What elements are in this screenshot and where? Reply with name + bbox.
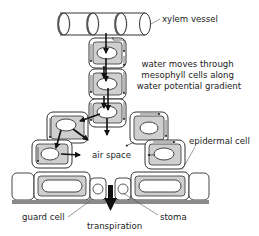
- guard-cell-label: guard cell: [22, 212, 65, 222]
- xylem-vessel-label: xylem vessel: [162, 14, 218, 24]
- mesophyll-cell-left-upper: [47, 112, 88, 143]
- mesophyll-cell-right-upper: [130, 112, 168, 144]
- air-space-label: air space: [92, 150, 131, 160]
- xylem-leader-line: [151, 19, 160, 24]
- epidermal-cell-label: epidermal cell: [189, 136, 250, 146]
- transpiration-label: transpiration: [87, 221, 142, 231]
- xylem-vessel: [58, 13, 150, 35]
- leaf-cross-section-diagram: xylem vessel water moves through mesophy…: [0, 0, 259, 236]
- mesophyll-cell-1: [89, 38, 126, 68]
- mesophyll-cell-right-lower: [145, 140, 185, 169]
- stoma-label: stoma: [160, 212, 187, 222]
- water-movement-label: water moves through mesophyll cells alon…: [137, 59, 242, 91]
